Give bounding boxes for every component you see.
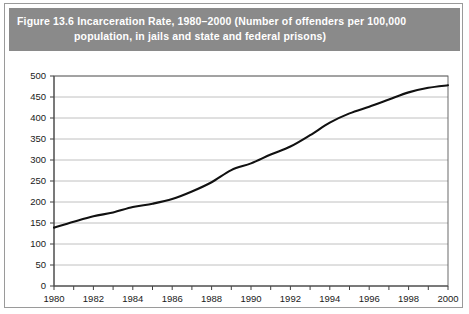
x-axis-tick-label: 1992: [280, 293, 301, 304]
caption-line-1: Figure 13.6 Incarceration Rate, 1980–200…: [17, 15, 406, 27]
y-axis-tick-label: 450: [30, 91, 46, 102]
chart-plot-region: 050100150200250300350400450500 198019821…: [5, 51, 464, 309]
x-axis-tick-label: 1996: [359, 293, 380, 304]
x-axis-tick-label: 1998: [398, 293, 419, 304]
x-axis-tick-label: 1988: [201, 293, 222, 304]
figure-caption: Figure 13.6 Incarceration Rate, 1980–200…: [9, 8, 460, 44]
x-axis-tick-label: 1982: [83, 293, 104, 304]
y-axis-tick-label: 50: [35, 259, 46, 270]
y-axis-tick-label: 0: [41, 280, 46, 291]
figure-caption-banner: Figure 13.6 Incarceration Rate, 1980–200…: [9, 8, 460, 51]
x-axis-tick-label: 1980: [43, 293, 64, 304]
incarceration-rate-line-chart: 050100150200250300350400450500 198019821…: [5, 51, 464, 309]
y-axis-tick-label: 150: [30, 217, 46, 228]
x-axis-labels: 1980198219841986198819901992199419961998…: [43, 293, 458, 304]
y-axis-tick-label: 100: [30, 238, 46, 249]
y-axis-tick-label: 500: [30, 70, 46, 81]
x-axis-tick-label: 1984: [122, 293, 143, 304]
x-axis-tick-label: 1986: [162, 293, 183, 304]
caption-line-2: population, in jails and state and feder…: [17, 29, 452, 44]
x-axis-tick-label: 1990: [240, 293, 261, 304]
y-axis-labels: 050100150200250300350400450500: [30, 70, 46, 291]
y-axis-tick-label: 350: [30, 133, 46, 144]
x-axis-tick-label: 2000: [437, 293, 458, 304]
data-series-line: [54, 85, 448, 227]
x-axis-ticks: [54, 286, 448, 290]
y-axis-tick-label: 250: [30, 175, 46, 186]
y-axis-tick-label: 200: [30, 196, 46, 207]
y-axis-tick-label: 400: [30, 112, 46, 123]
gridlines: [54, 76, 448, 286]
y-axis-ticks: [50, 76, 54, 286]
x-axis-tick-label: 1994: [319, 293, 340, 304]
figure-frame: Figure 13.6 Incarceration Rate, 1980–200…: [4, 3, 463, 308]
y-axis-tick-label: 300: [30, 154, 46, 165]
